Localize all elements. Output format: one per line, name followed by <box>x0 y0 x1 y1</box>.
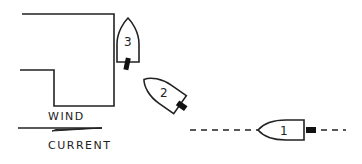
current-label: CURRENT <box>48 139 111 152</box>
boat-2: 2 <box>138 70 192 117</box>
boat-1: 1 <box>258 120 316 140</box>
boat-1-number: 1 <box>280 124 288 138</box>
boat-3: 3 <box>117 18 139 70</box>
boat-3-number: 3 <box>124 35 132 49</box>
boat-2-number: 2 <box>160 86 168 100</box>
outboard-motor-icon <box>306 127 316 133</box>
dock-outline <box>20 14 114 106</box>
wind-label: WIND <box>48 110 85 123</box>
docking-diagram: 3 2 1 WIND CURRENT <box>0 0 362 164</box>
